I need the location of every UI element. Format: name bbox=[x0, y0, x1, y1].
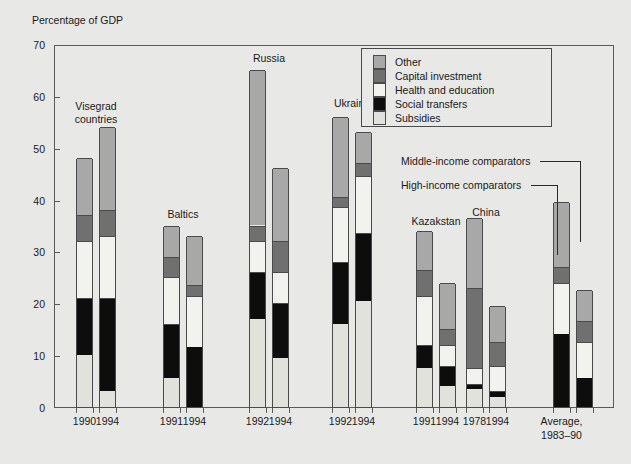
bar-segment bbox=[417, 368, 432, 407]
group-label: Baltics bbox=[138, 208, 228, 221]
legend-item[interactable]: Capital investment bbox=[373, 69, 481, 83]
bar-segment bbox=[356, 163, 371, 176]
bar-segment bbox=[490, 391, 505, 396]
y-tick-label: 0 bbox=[15, 402, 45, 414]
bar[interactable] bbox=[332, 118, 349, 408]
bar[interactable] bbox=[466, 219, 483, 408]
x-axis-label: Average, 1983–90 bbox=[522, 414, 602, 442]
annotation-label: Middle-income comparators bbox=[401, 155, 531, 167]
bar-segment bbox=[417, 345, 432, 368]
annotation-leader-line bbox=[531, 185, 557, 186]
bar-segment bbox=[187, 285, 202, 295]
group-label: Visegrad countries bbox=[51, 100, 141, 126]
bar-segment bbox=[77, 215, 92, 241]
bar-segment bbox=[100, 210, 115, 236]
x-tick-mark bbox=[416, 408, 417, 413]
bar[interactable] bbox=[99, 128, 116, 408]
legend-swatch bbox=[373, 69, 386, 83]
x-tick-mark bbox=[355, 408, 356, 413]
bar-segment bbox=[273, 241, 288, 272]
bar[interactable] bbox=[489, 307, 506, 408]
y-tick-mark bbox=[54, 97, 60, 98]
y-axis-title: Percentage of GDP bbox=[32, 14, 123, 26]
legend: OtherCapital investmentHealth and educat… bbox=[361, 48, 552, 127]
bar[interactable] bbox=[553, 203, 570, 408]
bar-segment bbox=[440, 345, 455, 366]
bar-segment bbox=[164, 226, 179, 257]
bar-segment bbox=[356, 132, 371, 163]
x-tick-mark bbox=[553, 408, 554, 413]
legend-label: Health and education bbox=[395, 84, 494, 96]
bar-segment bbox=[467, 384, 482, 389]
bar[interactable] bbox=[576, 291, 593, 408]
x-tick-mark bbox=[266, 408, 267, 413]
bar[interactable] bbox=[355, 133, 372, 408]
legend-swatch bbox=[373, 97, 386, 111]
bar-segment bbox=[77, 298, 92, 355]
bar-segment bbox=[77, 355, 92, 407]
group-label: China bbox=[441, 206, 531, 219]
bar-segment bbox=[467, 218, 482, 288]
x-tick-mark bbox=[506, 408, 507, 413]
y-tick-label: 70 bbox=[15, 39, 45, 51]
annotation-label: High-income comparators bbox=[401, 179, 521, 191]
bar[interactable] bbox=[272, 169, 289, 408]
bar-segment bbox=[333, 197, 348, 207]
bar-segment bbox=[554, 283, 569, 335]
bar-segment bbox=[356, 176, 371, 233]
y-tick-mark bbox=[54, 252, 60, 253]
x-tick-mark bbox=[593, 408, 594, 413]
bar-segment bbox=[187, 236, 202, 285]
bar-segment bbox=[164, 257, 179, 278]
x-tick-mark bbox=[433, 408, 434, 413]
bar-segment bbox=[164, 277, 179, 324]
bar-segment bbox=[100, 127, 115, 210]
bar-segment bbox=[164, 378, 179, 407]
bar-segment bbox=[440, 386, 455, 407]
bar-segment bbox=[250, 272, 265, 319]
x-tick-mark bbox=[372, 408, 373, 413]
y-tick-label: 20 bbox=[15, 298, 45, 310]
bar[interactable] bbox=[439, 284, 456, 408]
legend-swatch bbox=[373, 55, 386, 69]
y-tick-label: 10 bbox=[15, 350, 45, 362]
x-tick-mark bbox=[93, 408, 94, 413]
legend-swatch bbox=[373, 111, 386, 125]
bar-segment bbox=[187, 347, 202, 407]
x-tick-mark bbox=[483, 408, 484, 413]
bar[interactable] bbox=[163, 227, 180, 409]
bar-segment bbox=[356, 233, 371, 300]
bar[interactable] bbox=[249, 71, 266, 408]
bar-segment bbox=[467, 389, 482, 407]
annotation-leader-line bbox=[580, 161, 581, 242]
bar-segment bbox=[440, 366, 455, 387]
legend-item[interactable]: Social transfers bbox=[373, 97, 467, 111]
x-tick-mark bbox=[456, 408, 457, 413]
x-tick-mark bbox=[349, 408, 350, 413]
bar-segment bbox=[356, 301, 371, 407]
bar-segment bbox=[417, 296, 432, 345]
bar-segment bbox=[333, 262, 348, 324]
bar-segment bbox=[333, 117, 348, 197]
bar-segment bbox=[467, 368, 482, 384]
y-tick-mark bbox=[54, 149, 60, 150]
bar-segment bbox=[273, 168, 288, 241]
x-tick-mark bbox=[570, 408, 571, 413]
bar[interactable] bbox=[76, 159, 93, 408]
x-tick-mark bbox=[116, 408, 117, 413]
y-tick-mark bbox=[54, 356, 60, 357]
x-tick-mark bbox=[203, 408, 204, 413]
bar-segment bbox=[554, 267, 569, 283]
y-tick-label: 50 bbox=[15, 143, 45, 155]
legend-item[interactable]: Health and education bbox=[373, 83, 494, 97]
bar-segment bbox=[490, 306, 505, 342]
x-tick-mark bbox=[332, 408, 333, 413]
bar-segment bbox=[440, 283, 455, 330]
annotation-leader-line bbox=[540, 161, 580, 162]
bar-segment bbox=[467, 288, 482, 368]
legend-item[interactable]: Other bbox=[373, 55, 421, 69]
bar[interactable] bbox=[186, 237, 203, 408]
x-tick-mark bbox=[272, 408, 273, 413]
legend-item[interactable]: Subsidies bbox=[373, 111, 441, 125]
bar[interactable] bbox=[416, 232, 433, 408]
